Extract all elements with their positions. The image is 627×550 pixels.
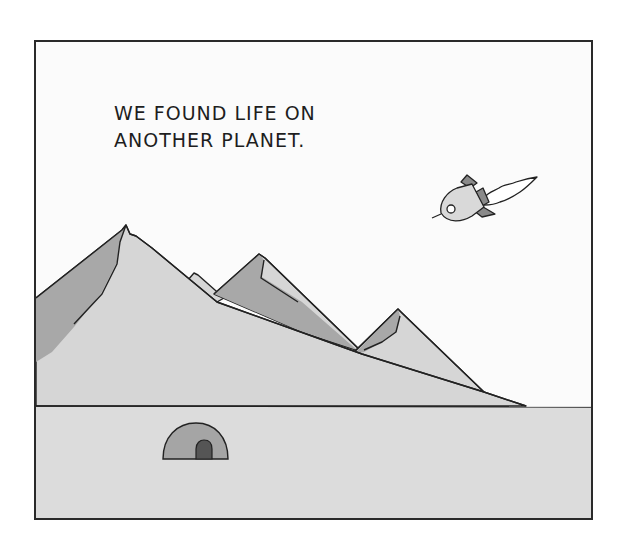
caption-line-1: WE FOUND LIFE ON [114,100,316,127]
comic-caption: WE FOUND LIFE ON ANOTHER PLANET. [114,100,316,154]
mountain-range [36,225,526,406]
caption-line-2: ANOTHER PLANET. [114,127,316,154]
comic-panel: WE FOUND LIFE ON ANOTHER PLANET. [34,40,593,520]
dome-door [196,440,212,459]
planet-surface [36,406,593,520]
exhaust-plume [484,177,537,205]
rocket-icon [432,175,537,221]
